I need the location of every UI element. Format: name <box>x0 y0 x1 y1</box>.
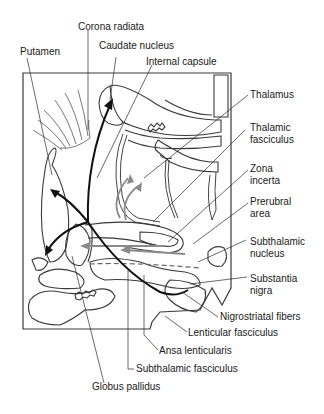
black-arrows <box>48 105 188 295</box>
label-thalamic-fasciculus: Thalamic fasciculus <box>250 122 320 146</box>
label-internal-capsule: Internal capsule <box>146 56 217 68</box>
lower-structures <box>28 258 205 325</box>
label-ansa-lenticularis: Ansa lenticularis <box>159 345 232 357</box>
label-zona-incerta: Zona incerta <box>250 163 320 187</box>
label-subthalamic-nucleus-line2: nucleus <box>250 248 320 260</box>
label-thalamus: Thalamus <box>250 89 294 101</box>
label-zona-incerta-line2: incerta <box>250 175 320 187</box>
label-substantia-nigra: Substantia nigra <box>250 273 320 297</box>
label-subthalamic-nucleus-line1: Subthalamic <box>250 236 320 248</box>
label-thalamic-fasciculus-line2: fasciculus <box>250 134 320 146</box>
label-subthalamic-nucleus: Subthalamic nucleus <box>250 236 320 260</box>
diagram-canvas: Corona radiata Putamen Caudate nucleus I… <box>0 0 324 414</box>
label-prerubral-area-line1: Prerubral <box>250 196 320 208</box>
label-corona-radiata: Corona radiata <box>78 21 144 33</box>
label-nigrostriatal-fibers: Nigrostriatal fibers <box>220 311 301 323</box>
label-prerubral-area: Prerubral area <box>250 196 320 220</box>
corona-radiata-fibers <box>33 90 90 150</box>
label-caudate-nucleus: Caudate nucleus <box>99 40 174 52</box>
label-subthalamic-fasciculus: Subthalamic fasciculus <box>136 363 238 375</box>
label-putamen: Putamen <box>20 46 60 58</box>
label-thalamic-fasciculus-line1: Thalamic <box>250 122 320 134</box>
label-substantia-nigra-line1: Substantia <box>250 273 320 285</box>
label-lenticular-fasciculus: Lenticular fasciculus <box>188 327 278 339</box>
thalamus-outline <box>99 75 228 172</box>
label-prerubral-area-line2: area <box>250 208 320 220</box>
label-globus-pallidus: Globus pallidus <box>92 381 160 393</box>
label-zona-incerta-line1: Zona <box>250 163 320 175</box>
label-substantia-nigra-line2: nigra <box>250 285 320 297</box>
subthalamic-nucleus-shape <box>208 247 227 267</box>
